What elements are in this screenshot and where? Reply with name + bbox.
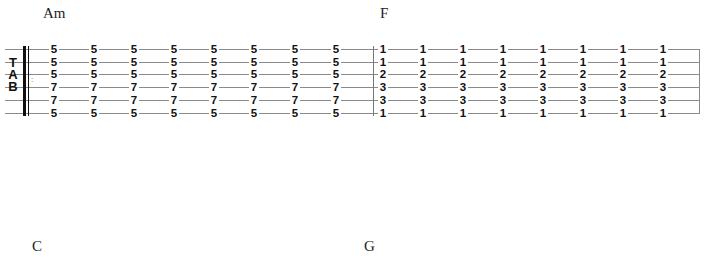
fret-number: 5 xyxy=(249,108,259,119)
fret-number: 3 xyxy=(498,95,508,106)
fret-number: 1 xyxy=(538,108,548,119)
fret-number: 5 xyxy=(331,69,341,80)
chord-label-am: Am xyxy=(43,5,66,22)
fret-number: 5 xyxy=(331,44,341,55)
chord-label-f: F xyxy=(380,5,388,22)
string-line-6 xyxy=(5,113,700,114)
fret-number: 5 xyxy=(49,57,59,68)
fret-number: 1 xyxy=(418,44,428,55)
chord-label-c: C xyxy=(32,238,42,255)
fret-number: 3 xyxy=(658,82,668,93)
fret-number: 3 xyxy=(658,95,668,106)
fret-number: 7 xyxy=(290,82,300,93)
fret-number: 7 xyxy=(249,95,259,106)
fret-number: 5 xyxy=(331,108,341,119)
fret-number: 5 xyxy=(209,69,219,80)
fret-number: 1 xyxy=(538,44,548,55)
fret-number: 3 xyxy=(458,95,468,106)
fret-number: 1 xyxy=(378,108,388,119)
fret-number: 5 xyxy=(49,44,59,55)
fret-number: 5 xyxy=(169,57,179,68)
string-line-4 xyxy=(5,87,700,88)
fret-number: 5 xyxy=(249,57,259,68)
fret-number: 5 xyxy=(89,57,99,68)
string-line-2 xyxy=(5,62,700,63)
fret-number: 1 xyxy=(458,57,468,68)
tab-clef: T A B xyxy=(8,57,18,93)
fret-number: 5 xyxy=(249,44,259,55)
string-line-1 xyxy=(5,49,700,50)
fret-number: 5 xyxy=(49,69,59,80)
fret-number: 7 xyxy=(209,82,219,93)
fret-number: 1 xyxy=(418,57,428,68)
fret-number: 1 xyxy=(498,108,508,119)
fret-number: 1 xyxy=(578,57,588,68)
fret-number: 3 xyxy=(378,95,388,106)
fret-number: 5 xyxy=(290,108,300,119)
fret-number: 5 xyxy=(129,108,139,119)
fret-number: 1 xyxy=(458,44,468,55)
chord-label-g: G xyxy=(364,238,375,255)
fret-number: 1 xyxy=(538,57,548,68)
measure-barline xyxy=(373,46,374,116)
fret-number: 2 xyxy=(498,69,508,80)
fret-number: 2 xyxy=(378,69,388,80)
fret-number: 5 xyxy=(89,69,99,80)
start-repeat-thick-bar xyxy=(23,46,26,116)
fret-number: 5 xyxy=(169,69,179,80)
fret-number: 1 xyxy=(378,57,388,68)
fret-number: 5 xyxy=(290,57,300,68)
fret-number: 7 xyxy=(169,82,179,93)
fret-number: 7 xyxy=(331,82,341,93)
fret-number: 1 xyxy=(618,44,628,55)
fret-number: 2 xyxy=(658,69,668,80)
string-line-5 xyxy=(5,100,700,101)
fret-number: 5 xyxy=(129,57,139,68)
fret-number: 2 xyxy=(538,69,548,80)
fret-number: 5 xyxy=(89,44,99,55)
start-repeat-thin-bar xyxy=(28,46,29,116)
fret-number: 2 xyxy=(458,69,468,80)
fret-number: 5 xyxy=(169,108,179,119)
fret-number: 1 xyxy=(578,44,588,55)
fret-number: 3 xyxy=(578,82,588,93)
fret-number: 2 xyxy=(578,69,588,80)
fret-number: 1 xyxy=(418,108,428,119)
fret-number: 5 xyxy=(331,57,341,68)
fret-number: 1 xyxy=(618,108,628,119)
fret-number: 3 xyxy=(418,82,428,93)
fret-number: 3 xyxy=(458,82,468,93)
fret-number: 3 xyxy=(618,95,628,106)
fret-number: 1 xyxy=(618,57,628,68)
fret-number: 7 xyxy=(129,82,139,93)
fret-number: 1 xyxy=(658,57,668,68)
fret-number: 7 xyxy=(169,95,179,106)
fret-number: 5 xyxy=(209,44,219,55)
fret-number: 5 xyxy=(209,108,219,119)
fret-number: 7 xyxy=(209,95,219,106)
fret-number: 3 xyxy=(538,82,548,93)
fret-number: 1 xyxy=(658,44,668,55)
fret-number: 5 xyxy=(209,57,219,68)
fret-number: 1 xyxy=(378,44,388,55)
fret-number: 1 xyxy=(658,108,668,119)
fret-number: 5 xyxy=(129,69,139,80)
tab-staff: T A B : 55577555577555577555577555577555… xyxy=(5,49,700,113)
fret-number: 3 xyxy=(418,95,428,106)
fret-number: 7 xyxy=(89,95,99,106)
fret-number: 3 xyxy=(578,95,588,106)
fret-number: 1 xyxy=(578,108,588,119)
fret-number: 3 xyxy=(618,82,628,93)
fret-number: 5 xyxy=(129,44,139,55)
fret-number: 3 xyxy=(498,82,508,93)
fret-number: 5 xyxy=(249,69,259,80)
fret-number: 3 xyxy=(378,82,388,93)
end-barline xyxy=(699,49,700,114)
fret-number: 1 xyxy=(498,57,508,68)
fret-number: 5 xyxy=(290,69,300,80)
fret-number: 5 xyxy=(89,108,99,119)
fret-number: 1 xyxy=(458,108,468,119)
fret-number: 2 xyxy=(618,69,628,80)
fret-number: 7 xyxy=(249,82,259,93)
fret-number: 7 xyxy=(89,82,99,93)
